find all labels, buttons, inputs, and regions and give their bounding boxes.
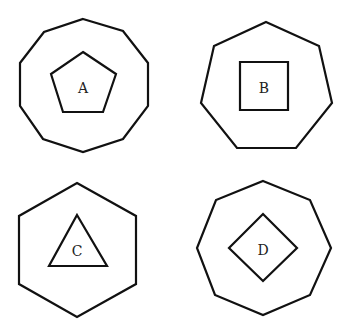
figure-b-label: B bbox=[259, 80, 269, 96]
figure-a: A bbox=[20, 19, 148, 152]
figure-d: D bbox=[197, 181, 331, 315]
figure-b: B bbox=[201, 22, 332, 148]
figure-a-label: A bbox=[77, 80, 89, 96]
diagram-svg: A B C D bbox=[0, 0, 348, 333]
figure-c: C bbox=[19, 183, 136, 317]
shapes-diagram: A B C D bbox=[0, 0, 348, 333]
figure-c-label: C bbox=[72, 243, 83, 259]
figure-d-label: D bbox=[257, 242, 268, 258]
